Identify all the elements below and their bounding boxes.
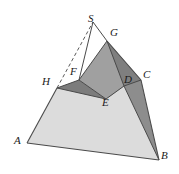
vertex-label-S: S (88, 13, 94, 24)
vertex-label-A: A (14, 135, 21, 146)
vertex-label-D: D (124, 74, 132, 85)
vertex-label-B: B (161, 150, 168, 161)
tetrahedron-diagram (0, 0, 179, 174)
geometry-figure: S G C D F H E A B (0, 0, 179, 174)
vertex-label-H: H (42, 76, 50, 87)
edge-S-G (93, 22, 107, 41)
vertex-label-E: E (102, 97, 109, 108)
vertex-label-G: G (110, 27, 118, 38)
vertex-label-C: C (143, 69, 150, 80)
vertex-label-F: F (70, 66, 77, 77)
